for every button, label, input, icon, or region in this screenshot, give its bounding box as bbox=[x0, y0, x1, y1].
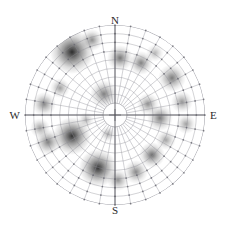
grid-node-dot bbox=[145, 30, 147, 32]
grid-node-dot bbox=[139, 182, 141, 184]
grid-node-dot bbox=[163, 155, 165, 157]
grid-node-dot bbox=[89, 182, 91, 184]
grid-node-dot bbox=[103, 177, 105, 179]
grid-node-dot bbox=[185, 73, 187, 75]
grid-node-dot bbox=[92, 174, 94, 176]
grid-node-dot bbox=[125, 177, 127, 179]
grid-node-dot bbox=[73, 163, 75, 165]
grid-node-dot bbox=[130, 203, 132, 205]
grid-node-dot bbox=[100, 34, 102, 36]
grid-node-dot bbox=[163, 73, 165, 75]
grid-node-dot bbox=[73, 65, 75, 67]
grid-node-dot bbox=[58, 161, 60, 163]
grid-node-dot bbox=[54, 136, 56, 138]
grid-node-dot bbox=[199, 145, 201, 147]
density-blob bbox=[107, 45, 133, 71]
grid-node-dot bbox=[36, 159, 38, 161]
grid-node-dot bbox=[170, 82, 172, 84]
grid-node-dot bbox=[192, 69, 194, 71]
grid-node-dot bbox=[182, 89, 184, 91]
grid-node-dot bbox=[102, 43, 104, 45]
grid-node-dot bbox=[34, 100, 36, 102]
grid-node-dot bbox=[103, 51, 105, 53]
grid-node-dot bbox=[38, 142, 40, 144]
grid-node-dot bbox=[203, 99, 205, 101]
grid-node-dot bbox=[128, 194, 130, 196]
grid-node-dot bbox=[34, 128, 36, 130]
grid-node-dot bbox=[58, 67, 60, 69]
grid-node-dot bbox=[51, 103, 53, 105]
grid-node-dot bbox=[26, 99, 28, 101]
grid-node-dot bbox=[127, 43, 129, 45]
density-blob bbox=[156, 130, 176, 150]
grid-node-dot bbox=[139, 46, 141, 48]
grid-node-dot bbox=[191, 86, 193, 88]
grid-node-dot bbox=[30, 145, 32, 147]
cardinal-label-south: S bbox=[112, 204, 118, 216]
grid-node-dot bbox=[83, 30, 85, 32]
grid-node-dot bbox=[182, 139, 184, 141]
grid-node-dot bbox=[51, 78, 53, 80]
grid-node-dot bbox=[192, 159, 194, 161]
grid-node-dot bbox=[78, 51, 80, 53]
grid-node-dot bbox=[100, 194, 102, 196]
grid-node-dot bbox=[44, 155, 46, 157]
grid-node-dot bbox=[150, 177, 152, 179]
grid-node-dot bbox=[186, 102, 188, 104]
grid-node-dot bbox=[166, 52, 168, 54]
grid-node-dot bbox=[176, 166, 178, 168]
grid-node-dot bbox=[67, 170, 69, 172]
grid-node-dot bbox=[174, 136, 176, 138]
grid-node-dot bbox=[185, 155, 187, 157]
grid-node-dot bbox=[86, 38, 88, 40]
grid-node-dot bbox=[46, 139, 48, 141]
grid-node-dot bbox=[128, 34, 130, 36]
grid-node-dot bbox=[52, 62, 54, 64]
grid-node-dot bbox=[161, 170, 163, 172]
grid-node-dot bbox=[67, 58, 69, 60]
grid-node-dot bbox=[177, 125, 179, 127]
grid-node-dot bbox=[59, 82, 61, 84]
grid-node-dot bbox=[86, 191, 88, 193]
grid-node-dot bbox=[136, 54, 138, 56]
grid-node-dot bbox=[65, 155, 67, 157]
grid-node-dot bbox=[44, 73, 46, 75]
grid-node-dot bbox=[38, 86, 40, 88]
grid-node-dot bbox=[43, 102, 45, 104]
grid-node-dot bbox=[194, 128, 196, 130]
grid-node-dot bbox=[176, 62, 178, 64]
grid-node-dot bbox=[177, 150, 179, 152]
grid-node-dot bbox=[56, 183, 58, 185]
grid-node-dot bbox=[155, 185, 157, 187]
grid-node-dot bbox=[69, 36, 71, 38]
grid-node-dot bbox=[45, 172, 47, 174]
grid-node-dot bbox=[36, 69, 38, 71]
grid-node-dot bbox=[130, 26, 132, 28]
grid-node-dot bbox=[78, 177, 80, 179]
grid-node-dot bbox=[183, 56, 185, 58]
cardinal-label-east: E bbox=[210, 109, 217, 121]
pole-figure-plot: N E S W bbox=[0, 0, 230, 230]
grid-node-dot bbox=[155, 44, 157, 46]
grid-node-dot bbox=[46, 89, 48, 91]
grid-node-dot bbox=[59, 146, 61, 148]
grid-node-dot bbox=[82, 59, 84, 61]
grid-node-dot bbox=[30, 83, 32, 85]
grid-node-dot bbox=[45, 56, 47, 58]
grid-node-dot bbox=[127, 186, 129, 188]
grid-node-dot bbox=[203, 130, 205, 132]
grid-node-dot bbox=[155, 65, 157, 67]
grid-node-dot bbox=[191, 142, 193, 144]
grid-node-dot bbox=[155, 163, 157, 165]
cardinal-label-north: N bbox=[111, 14, 119, 26]
grid-node-dot bbox=[150, 51, 152, 53]
grid-node-dot bbox=[83, 199, 85, 201]
grid-node-dot bbox=[51, 150, 53, 152]
grid-node-dot bbox=[73, 185, 75, 187]
grid-node-dot bbox=[62, 52, 64, 54]
grid-node-dot bbox=[146, 170, 148, 172]
grid-node-dot bbox=[145, 199, 147, 201]
grid-node-dot bbox=[136, 174, 138, 176]
grid-node-dot bbox=[82, 170, 84, 172]
grid-node-dot bbox=[26, 130, 28, 132]
